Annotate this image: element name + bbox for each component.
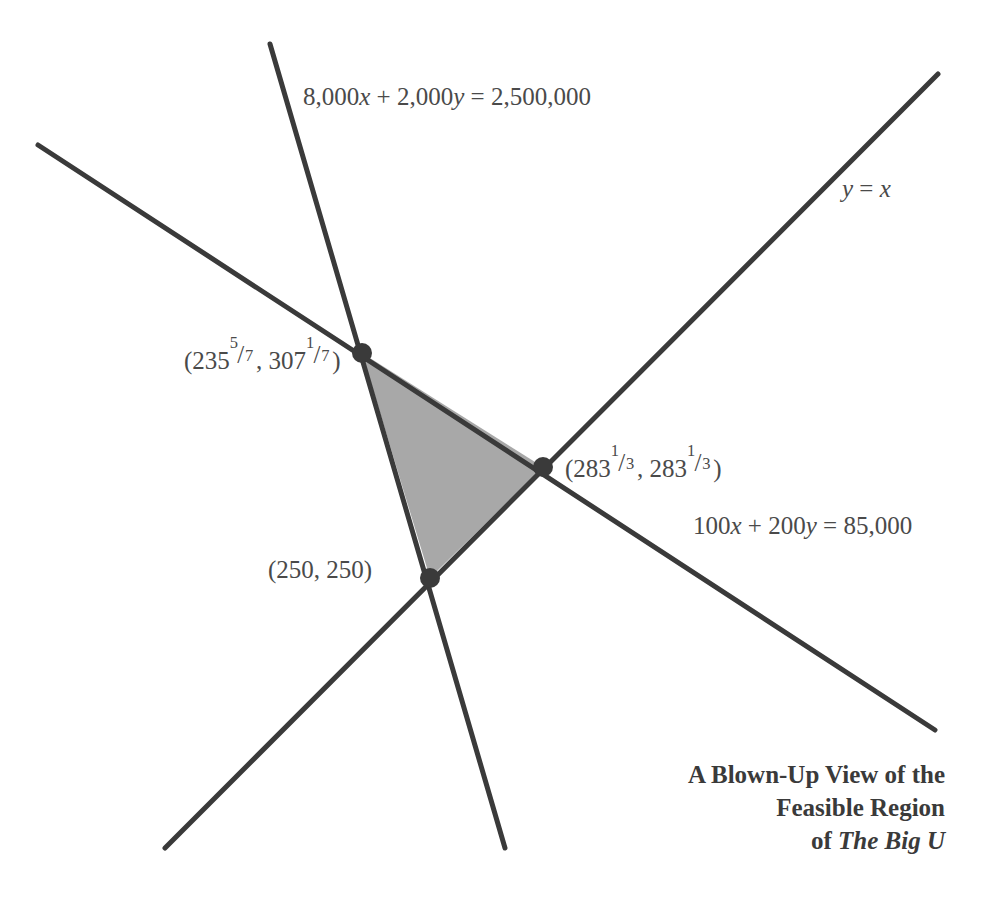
variable-y: y	[453, 83, 464, 110]
caption-prefix: of	[811, 827, 838, 854]
vertex-label-bottom: (250, 250)	[268, 557, 372, 582]
mixed-fraction-x: 1/3	[611, 452, 637, 477]
equation-label-y-equals-x: y = x	[842, 176, 891, 201]
figure-caption: A Blown-Up View of the Feasible Region o…	[525, 758, 945, 857]
equation-label-constraint-2: 100x + 200y = 85,000	[693, 513, 912, 538]
mixed-fraction-y: 1/3	[687, 452, 713, 477]
caption-line-1: A Blown-Up View of the	[525, 758, 945, 791]
equation-label-constraint-1: 8,000x + 2,000y = 2,500,000	[303, 84, 591, 109]
variable-y: y	[806, 512, 817, 539]
variable-x: x	[359, 83, 370, 110]
vertex-dot-right	[533, 457, 553, 477]
vertex-dot-bottom	[420, 568, 440, 588]
variable-x: x	[880, 175, 891, 202]
variable-x: x	[731, 512, 742, 539]
caption-line-2: Feasible Region	[525, 791, 945, 824]
mixed-fraction-y: 1/7	[306, 344, 332, 369]
variable-y: y	[842, 175, 853, 202]
vertex-label-right: (2831/3, 2831/3)	[565, 452, 722, 481]
mixed-fraction-x: 5/7	[230, 344, 256, 369]
caption-book-title: The Big U	[838, 827, 945, 854]
caption-line-3: of The Big U	[525, 824, 945, 857]
vertex-label-upper-left: (2355/7, 3071/7)	[184, 344, 341, 373]
vertex-dot-upper-left	[352, 343, 372, 363]
